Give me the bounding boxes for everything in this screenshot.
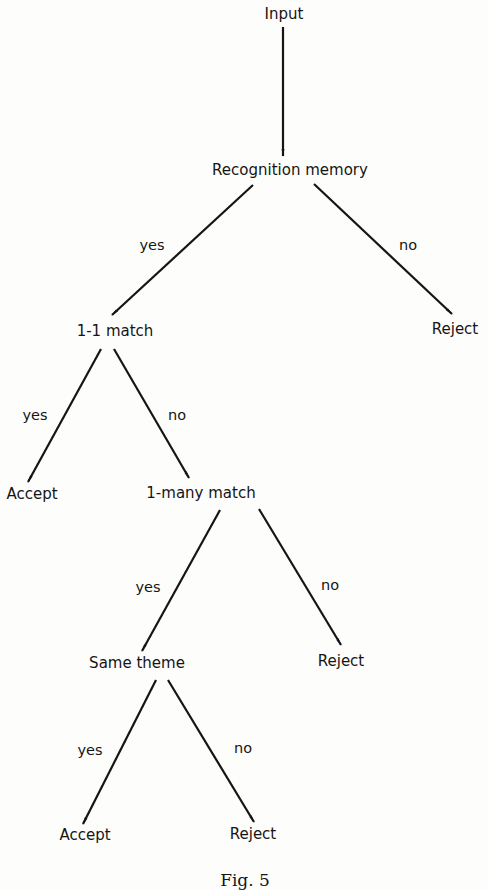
node-same-theme: Same theme [89,656,185,671]
figure-caption: Fig. 5 [220,870,270,890]
edge-label-recognition-yes: yes [139,238,164,253]
node-recognition-memory: Recognition memory [212,163,368,178]
edge-label-sametheme-yes: yes [77,743,102,758]
edge-label-recognition-no: no [399,238,417,253]
node-reject-2: Reject [318,654,365,669]
node-accept-2: Accept [59,828,110,843]
edge-label-sametheme-no: no [234,741,252,756]
edge-recognition-yes [112,185,253,315]
edge-label-onematch-yes: yes [22,408,47,423]
edge-label-manymatch-no: no [321,578,339,593]
node-reject-3: Reject [230,827,277,842]
edge-label-manymatch-yes: yes [135,580,160,595]
node-input: Input [265,7,304,22]
node-one-one-match: 1-1 match [77,324,154,339]
edge-recognition-no [314,184,452,314]
edge-label-onematch-no: no [168,408,186,423]
node-reject-1: Reject [432,322,479,337]
node-one-many-match: 1-many match [146,486,255,501]
node-accept-1: Accept [6,487,57,502]
